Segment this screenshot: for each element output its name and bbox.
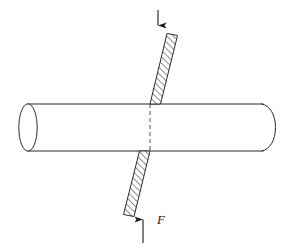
shear-plane-upper bbox=[150, 34, 178, 105]
shear-plane-upper-face bbox=[150, 34, 178, 105]
figure-container: F bbox=[0, 0, 299, 248]
shear-plane-lower bbox=[124, 151, 151, 217]
cylinder-body-fill bbox=[19, 104, 275, 151]
cylinder-left-end-ellipse bbox=[19, 104, 37, 151]
cylinder-bar bbox=[19, 104, 276, 151]
force-label-F: F bbox=[156, 212, 166, 227]
shear-bar-diagram: F bbox=[0, 0, 299, 248]
shear-plane-lower-face bbox=[124, 151, 151, 217]
